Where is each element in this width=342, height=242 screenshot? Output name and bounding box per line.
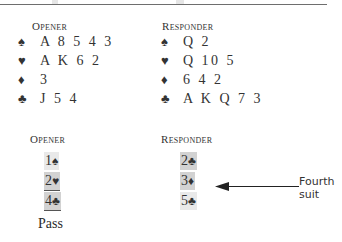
diamond-icon: ♦ (161, 70, 183, 89)
bid-level: 2 (181, 153, 188, 168)
bid-2-clubs: 2♣ (180, 152, 197, 172)
club-icon: ♣ (188, 194, 196, 208)
cards: J 5 4 (40, 91, 79, 106)
bid-level: 3 (181, 173, 188, 188)
club-icon: ♣ (188, 154, 196, 168)
bid-4-clubs: 4♣ (44, 192, 61, 212)
heart-icon: ♥ (18, 51, 40, 70)
opener-bids: 1♠ 2♥ 4♣ (44, 152, 61, 212)
responder-hand-heading: Responder (162, 20, 213, 32)
bid-level: 5 (181, 193, 188, 208)
hand-row-spades: ♠A 8 5 4 3 (18, 32, 114, 51)
hand-row-hearts: ♥Q 10 5 (161, 51, 263, 70)
cards: Q 2 (183, 34, 211, 49)
bid-2-hearts: 2♥ (44, 172, 61, 192)
fourth-suit-annotation: Fourth suit (299, 175, 342, 201)
spade-icon: ♠ (18, 32, 40, 51)
heart-icon: ♥ (52, 174, 59, 188)
hand-row-spades: ♠Q 2 (161, 32, 263, 51)
hand-row-diamonds: ♦6 4 2 (161, 70, 263, 89)
opener-auction-heading: Opener (30, 133, 65, 145)
top-rule (0, 4, 327, 5)
bid-5-clubs: 5♣ (180, 192, 197, 212)
diamond-icon: ♦ (188, 174, 194, 188)
cards: 6 4 2 (183, 72, 224, 87)
bid-level: 2 (45, 173, 52, 188)
diamond-icon: ♦ (18, 70, 40, 89)
bid-3-diamonds: 3♦ (180, 172, 197, 192)
cards: 3 (40, 72, 50, 87)
arrow-left-icon (215, 182, 299, 191)
heart-icon: ♥ (161, 51, 183, 70)
responder-hand: ♠Q 2 ♥Q 10 5 ♦6 4 2 ♣A K Q 7 3 (161, 32, 263, 108)
cards: A K 6 2 (40, 53, 101, 68)
opener-hand: ♠A 8 5 4 3 ♥A K 6 2 ♦3 ♣J 5 4 (18, 32, 114, 108)
hand-row-diamonds: ♦3 (18, 70, 114, 89)
hand-row-clubs: ♣A K Q 7 3 (161, 89, 263, 108)
pass-bid: Pass (38, 216, 63, 232)
hand-row-clubs: ♣J 5 4 (18, 89, 114, 108)
opener-hand-heading: Opener (32, 20, 67, 32)
club-icon: ♣ (161, 89, 183, 108)
responder-auction-heading: Responder (161, 133, 212, 145)
spade-icon: ♠ (161, 32, 183, 51)
hand-row-hearts: ♥A K 6 2 (18, 51, 114, 70)
spade-icon: ♠ (52, 154, 58, 168)
responder-bids: 2♣ 3♦ 5♣ (180, 152, 197, 212)
club-icon: ♣ (18, 89, 40, 108)
bid-level: 4 (45, 193, 52, 208)
cards: A 8 5 4 3 (40, 34, 114, 49)
cards: A K Q 7 3 (183, 91, 263, 106)
cards: Q 10 5 (183, 53, 236, 68)
bid-level: 1 (45, 153, 52, 168)
club-icon: ♣ (52, 194, 60, 208)
bid-1-spades: 1♠ (44, 152, 61, 172)
